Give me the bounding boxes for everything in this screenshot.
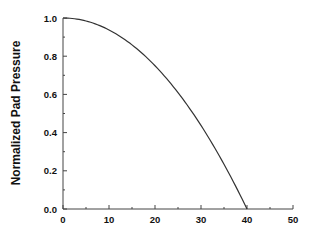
x-axis-ticks: 01020304050 [60,205,298,225]
y-tick-label: 0.4 [44,127,58,138]
y-tick-label: 0.2 [44,165,57,176]
x-tick-label: 40 [242,214,253,225]
x-tick-label: 0 [60,214,65,225]
y-axis-label: Normalized Pad Pressure [9,40,23,185]
y-tick-label: 0.0 [44,204,57,215]
x-tick-label: 30 [196,214,207,225]
axes [63,18,293,209]
y-tick-label: 0.8 [44,51,57,62]
x-tick-label: 20 [150,214,161,225]
y-tick-label: 1.0 [44,13,57,24]
pressure-curve [63,18,247,209]
pad-pressure-chart: 01020304050 0.00.20.40.60.81.0 Normalize… [0,0,311,240]
y-tick-label: 0.6 [44,89,57,100]
x-tick-label: 10 [104,214,115,225]
y-axis-ticks: 0.00.20.40.60.81.0 [44,13,67,215]
x-tick-label: 50 [288,214,299,225]
